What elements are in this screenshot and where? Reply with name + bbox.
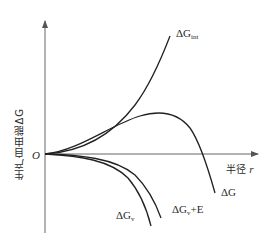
free-energy-diagram [0,0,276,242]
origin-label: O [32,149,40,161]
curve-delta-gv [45,154,151,226]
label-delta-g: ΔG [221,186,236,198]
x-axis-label: 半径 r [226,161,253,176]
y-axis-label: 生产自由能ΔG [12,108,27,180]
label-delta-gv: ΔGv [116,209,135,223]
label-delta-g-int: ΔGint [176,27,198,41]
curve-delta-g-int [45,36,170,154]
label-delta-gv-plus-e: ΔGv+E [172,203,203,217]
